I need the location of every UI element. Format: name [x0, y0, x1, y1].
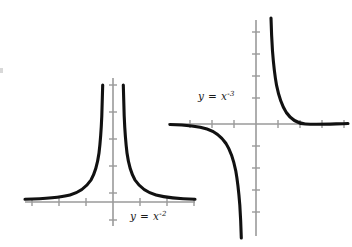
left-equation-exponent: -2 — [159, 210, 167, 218]
right-equation-base: y = x — [197, 90, 227, 102]
left-graph-branch-positive — [123, 85, 195, 199]
left-graph-branch-negative — [25, 85, 103, 199]
power-function-figure: y = x-2 — [0, 0, 352, 247]
right-graph-branch-positive — [271, 18, 348, 124]
right-graph-equation-label: y = x-3 — [197, 90, 235, 102]
right-graph-x-inverse-cubed: y = x-3 — [168, 18, 348, 238]
left-graph-equation-label: y = x-2 — [129, 210, 167, 222]
right-graph-branch-negative — [170, 125, 241, 239]
right-equation-exponent: -3 — [227, 90, 235, 98]
graph-canvas: y = x-2 — [0, 0, 352, 247]
left-graph-x-inverse-squared: y = x-2 — [25, 78, 195, 226]
left-equation-base: y = x — [129, 210, 159, 222]
edge-artifact — [0, 68, 3, 73]
